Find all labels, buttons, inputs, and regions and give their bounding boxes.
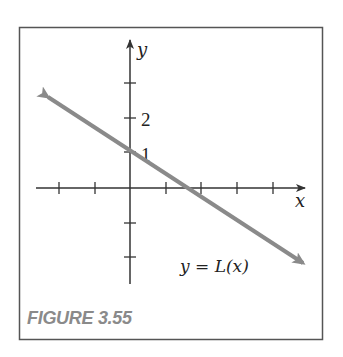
line-L [48, 97, 303, 263]
y-axis-label: y [136, 39, 148, 60]
x-axis-label: x [295, 190, 305, 211]
line-label: y = L(x) [179, 256, 249, 276]
x-axis [36, 182, 305, 194]
figure-frame [20, 28, 323, 340]
figure-caption: FIGURE 3.55 [27, 308, 132, 329]
y-axis [124, 40, 136, 284]
y-tick-label-2: 2 [141, 109, 151, 130]
figure-svg: x y 2 1 y = L(x) [0, 0, 343, 357]
